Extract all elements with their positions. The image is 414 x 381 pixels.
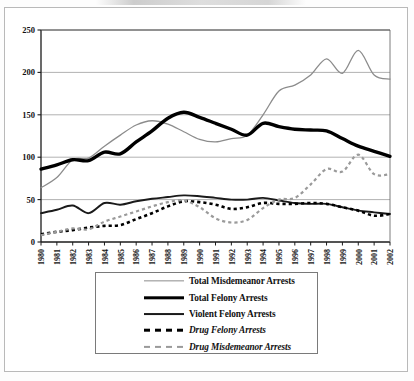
legend-swatch-icon <box>144 309 184 319</box>
legend-swatch-icon <box>144 276 184 286</box>
legend-item: Violent Felony Arrests <box>96 306 317 322</box>
legend-swatch-icon <box>144 325 184 335</box>
legend-item: Drug Misdemeanor Arrests <box>96 339 317 355</box>
x-axis-tick-label: 1985 <box>117 249 126 265</box>
x-axis-tick-label: 1987 <box>148 249 157 265</box>
legend-item: Drug Felony Arrests <box>96 322 317 338</box>
x-axis-tick-label: 1981 <box>53 249 62 265</box>
x-axis-tick-label: 1989 <box>180 249 189 265</box>
x-axis-tick-label: 1984 <box>101 249 110 265</box>
x-axis-tick-label: 1980 <box>37 249 46 265</box>
x-axis-tick-label: 1982 <box>69 249 78 265</box>
x-axis-tick-label: 1988 <box>164 249 173 265</box>
y-axis-tick-label: 0 <box>31 237 35 247</box>
x-axis-tick-label: 1991 <box>212 249 221 265</box>
legend-item-label: Drug Misdemeanor Arrests <box>189 342 291 352</box>
legend-item-label: Total Felony Arrests <box>189 293 268 303</box>
chart-screenshot: 0501001502002501980198119821983198419851… <box>0 0 414 381</box>
legend-swatch-icon <box>144 342 184 352</box>
y-axis-tick-label: 50 <box>27 195 36 205</box>
x-axis-tick-label: 1992 <box>228 249 237 265</box>
y-axis-tick-label: 200 <box>22 67 35 77</box>
chart-legend: Total Misdemeanor ArrestsTotal Felony Ar… <box>95 272 318 354</box>
y-axis-tick-label: 250 <box>22 25 35 35</box>
x-axis-tick-label: 1998 <box>323 249 332 265</box>
legend-item: Total Felony Arrests <box>96 289 317 305</box>
y-axis-tick-label: 150 <box>22 110 35 120</box>
legend-item: Total Misdemeanor Arrests <box>96 273 317 289</box>
x-axis-tick-label: 1996 <box>291 249 300 265</box>
x-axis-tick-label: 1994 <box>259 249 268 265</box>
x-axis-tick-label: 2000 <box>355 249 364 265</box>
x-axis-tick-label: 1997 <box>307 249 316 265</box>
x-axis-tick-label: 1986 <box>132 249 141 265</box>
legend-swatch-icon <box>144 293 184 303</box>
legend-item-label: Total Misdemeanor Arrests <box>189 276 295 286</box>
x-axis-tick-label: 1999 <box>339 249 348 265</box>
x-axis-tick-label: 1993 <box>244 249 253 265</box>
x-axis-tick-label: 1995 <box>275 249 284 265</box>
legend-item-label: Violent Felony Arrests <box>189 309 276 319</box>
x-axis-tick-label: 1983 <box>85 249 94 265</box>
x-axis-tick-label: 2002 <box>386 249 395 265</box>
x-axis-tick-label: 2001 <box>370 249 379 265</box>
y-axis-tick-label: 100 <box>22 152 35 162</box>
legend-item-label: Drug Felony Arrests <box>189 325 266 335</box>
x-axis-tick-label: 1990 <box>196 249 205 265</box>
